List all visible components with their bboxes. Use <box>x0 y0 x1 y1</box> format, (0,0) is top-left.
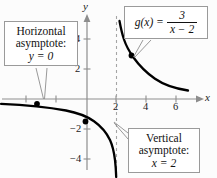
fraction-denominator: x − 2 <box>167 23 197 36</box>
curve-point-marker <box>83 119 89 125</box>
curve-point-marker <box>34 101 40 107</box>
function-callout-leader <box>134 40 152 58</box>
horizontal-callout-leader <box>36 68 47 99</box>
x-tick-label-2: 2 <box>113 101 118 112</box>
function-fraction: 3 x − 2 <box>167 10 197 36</box>
horizontal-callout-line2: asymptote: <box>7 37 75 49</box>
vertical-callout-line2: asymptote: <box>131 144 197 156</box>
x-tick-label-4: 4 <box>143 101 148 112</box>
fraction-numerator: 3 <box>176 10 188 23</box>
rational-function-figure: 2 4 6 4 2 −2 −4 y x Horizontal asymptote… <box>0 0 217 178</box>
vertical-callout-line1: Vertical <box>131 132 197 144</box>
horizontal-callout-line1: Horizontal <box>7 25 75 37</box>
vertical-asymptote-callout: Vertical asymptote: x = 2 <box>128 128 200 173</box>
vertical-callout-equation: x = 2 <box>131 157 197 169</box>
horizontal-asymptote-callout: Horizontal asymptote: y = 0 <box>4 21 78 66</box>
y-tick-label-minus-4: −4 <box>70 153 81 164</box>
y-axis-label: y <box>83 0 88 12</box>
function-expression: g(x) = 3 x − 2 <box>135 10 198 36</box>
curve-left-branch <box>1 104 116 177</box>
function-lhs: g(x) = <box>135 16 164 28</box>
curve-point-marker <box>129 53 135 59</box>
y-axis <box>84 14 91 170</box>
x-tick-label-6: 6 <box>173 101 178 112</box>
x-axis-label: x <box>205 91 210 103</box>
y-tick-label-minus-2: −2 <box>70 123 81 134</box>
function-definition-callout: g(x) = 3 x − 2 <box>124 6 208 39</box>
horizontal-callout-equation: y = 0 <box>7 50 75 62</box>
